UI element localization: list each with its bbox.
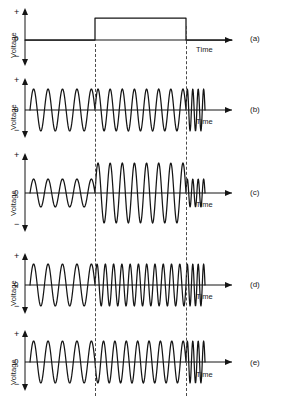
panel-d-waveform [0, 248, 283, 320]
panel-e-voltage-arrowhead-down [22, 384, 28, 391]
panel-d-frequency-modulated-wave: Voltage + 0 − Time (d) [0, 248, 283, 320]
panel-a-voltage-arrowhead-down [22, 59, 28, 66]
panel-a-voltage-arrowhead-up [22, 8, 28, 15]
panel-b-voltage-arrowhead-down [22, 131, 28, 138]
panel-a-waveform [0, 0, 283, 70]
panel-c-waveform [0, 150, 283, 236]
panel-b-voltage-arrowhead-up [22, 78, 28, 85]
panel-e-voltage-arrowhead-up [22, 330, 28, 337]
panel-c-time-arrowhead [225, 190, 232, 196]
panel-b-unmodulated-carrier: Voltage + 0 − Time (b) [0, 74, 283, 144]
panel-d-voltage-arrowhead-down [22, 307, 28, 314]
panel-a-modulating-square-pulse: Voltage + 0 − Time (a) [0, 0, 283, 70]
panel-e-time-arrowhead [225, 359, 232, 365]
panel-c-amplitude-modulated-wave: Voltage + 0 − Time (c) [0, 150, 283, 236]
pulse-start-guide-line [95, 44, 96, 396]
pulse-end-guide-line [186, 26, 187, 396]
modulation-figure: Voltage + 0 − Time (a) Voltage + 0 − Tim… [0, 0, 283, 407]
panel-b-time-arrowhead [225, 107, 232, 113]
panel-b-waveform [0, 74, 283, 144]
panel-c-voltage-arrowhead-up [22, 153, 28, 160]
panel-c-voltage-arrowhead-down [22, 225, 28, 232]
panel-e-phase-modulated-wave: Voltage + 0 − Time (e) [0, 325, 283, 401]
panel-e-waveform [0, 325, 283, 401]
panel-d-time-arrowhead [225, 282, 232, 288]
panel-d-voltage-arrowhead-up [22, 253, 28, 260]
